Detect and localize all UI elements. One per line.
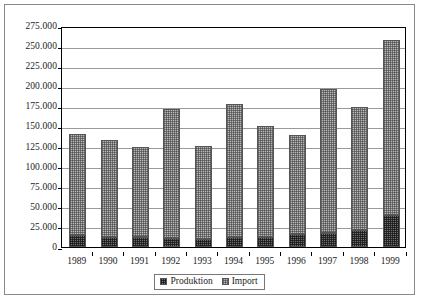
chart-legend: ProduktionImport [5, 274, 414, 290]
x-axis-tick-label: 1994 [218, 257, 249, 267]
y-axis-tick-label: 225.000 [11, 62, 57, 72]
y-tick-mark [58, 249, 62, 250]
x-axis-tick-label: 1996 [281, 257, 312, 267]
bar-segment-import[interactable] [132, 147, 149, 237]
bar-segment-produktion[interactable] [320, 233, 337, 247]
x-axis-tick-label: 1997 [312, 257, 343, 267]
y-axis-tick-label: 250.000 [11, 42, 57, 52]
bar-segment-import[interactable] [289, 135, 306, 234]
x-axis-tick-label: 1993 [186, 257, 217, 267]
x-tick-mark [343, 252, 344, 256]
x-axis-tick-label: 1995 [249, 257, 280, 267]
x-tick-mark [249, 252, 250, 256]
bar-segment-import[interactable] [101, 140, 118, 236]
y-axis-tick-label: 0 [11, 243, 57, 253]
legend-item-import[interactable]: Import [222, 277, 258, 287]
bar-stack[interactable] [383, 26, 400, 247]
bar-segment-import[interactable] [351, 107, 368, 230]
x-axis-tick-label: 1991 [124, 257, 155, 267]
bar-segment-import[interactable] [320, 89, 337, 233]
x-axis-tick-label: 1998 [343, 257, 374, 267]
import-swatch-icon [222, 278, 229, 285]
x-axis-tick-label: 1999 [375, 257, 406, 267]
y-axis-tick-label: 200.000 [11, 82, 57, 92]
bar-stack[interactable] [69, 26, 86, 247]
bar-segment-produktion[interactable] [289, 234, 306, 247]
x-tick-mark [123, 252, 124, 256]
y-axis-tick-label: 150.000 [11, 122, 57, 132]
bar-segment-import[interactable] [383, 40, 400, 215]
x-tick-mark [155, 252, 156, 256]
bar-stack[interactable] [195, 26, 212, 247]
y-axis-tick-label: 175.000 [11, 102, 57, 112]
legend-item-label: Produktion [170, 277, 212, 287]
bar-stack[interactable] [163, 26, 180, 247]
bar-segment-import[interactable] [163, 109, 180, 238]
bars-layer [62, 28, 405, 247]
produktion-swatch-icon [160, 278, 167, 285]
bar-segment-produktion[interactable] [226, 237, 243, 247]
x-tick-mark [374, 252, 375, 256]
bar-segment-produktion[interactable] [257, 237, 274, 247]
bar-stack[interactable] [226, 26, 243, 247]
x-tick-mark [92, 252, 93, 256]
x-axis-tick-label: 1990 [92, 257, 123, 267]
bar-segment-produktion[interactable] [163, 238, 180, 247]
x-tick-mark [217, 252, 218, 256]
bar-stack[interactable] [351, 26, 368, 247]
bar-stack[interactable] [289, 26, 306, 247]
bar-segment-produktion[interactable] [132, 237, 149, 247]
y-axis-tick-label: 100.000 [11, 163, 57, 173]
bar-segment-produktion[interactable] [69, 235, 86, 247]
y-axis: 275.000250.000225.000200.000175.000150.0… [5, 27, 57, 248]
x-tick-mark [311, 252, 312, 256]
bar-stack[interactable] [320, 26, 337, 247]
x-axis-tick-label: 1989 [61, 257, 92, 267]
legend-item-label: Import [232, 277, 258, 287]
bar-segment-import[interactable] [195, 146, 212, 239]
x-axis-tick-label: 1992 [155, 257, 186, 267]
bar-segment-produktion[interactable] [383, 215, 400, 247]
bar-segment-import[interactable] [226, 104, 243, 237]
plot-area [61, 27, 406, 248]
bar-stack[interactable] [101, 26, 118, 247]
y-axis-tick-label: 275.000 [11, 22, 57, 32]
y-axis-tick-label: 50.000 [11, 203, 57, 213]
y-axis-tick-label: 25.000 [11, 223, 57, 233]
bar-segment-import[interactable] [257, 126, 274, 237]
bar-segment-produktion[interactable] [195, 239, 212, 247]
x-tick-mark [406, 252, 407, 256]
bar-segment-produktion[interactable] [351, 230, 368, 247]
chart-frame: 275.000250.000225.000200.000175.000150.0… [4, 4, 415, 295]
bar-segment-import[interactable] [69, 134, 86, 235]
y-axis-tick-label: 125.000 [11, 143, 57, 153]
x-tick-mark [280, 252, 281, 256]
x-axis: 1989199019911992199319941995199619971998… [61, 252, 406, 268]
legend-box: ProduktionImport [154, 274, 264, 290]
bar-stack[interactable] [132, 26, 149, 247]
bar-stack[interactable] [257, 26, 274, 247]
legend-item-produktion[interactable]: Produktion [160, 277, 212, 287]
x-tick-mark [186, 252, 187, 256]
bar-segment-produktion[interactable] [101, 237, 118, 247]
y-axis-tick-label: 75.000 [11, 183, 57, 193]
